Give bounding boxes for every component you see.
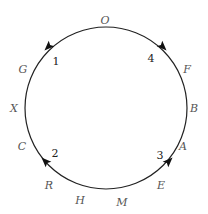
letter-label-f: F bbox=[182, 63, 191, 76]
letter-label-x: X bbox=[9, 102, 19, 115]
number-labels: 1423 bbox=[52, 52, 164, 162]
arrow-3-icon bbox=[163, 155, 176, 168]
letter-label-e: E bbox=[156, 179, 165, 192]
letter-label-a: A bbox=[178, 140, 187, 153]
step-number-4: 4 bbox=[148, 52, 155, 65]
cycle-diagram: OGFXBCAREHM 1423 bbox=[0, 0, 208, 214]
letter-label-r: R bbox=[44, 179, 53, 192]
letter-label-c: C bbox=[18, 140, 27, 153]
letter-label-m: M bbox=[115, 196, 128, 209]
letter-label-b: B bbox=[189, 102, 198, 115]
arrow-4-icon bbox=[157, 41, 170, 54]
letter-labels: OGFXBCAREHM bbox=[9, 14, 198, 209]
cycle-circle bbox=[25, 27, 187, 189]
step-number-3: 3 bbox=[157, 149, 164, 162]
letter-label-o: O bbox=[100, 14, 109, 27]
step-number-1: 1 bbox=[53, 55, 60, 68]
step-number-2: 2 bbox=[52, 147, 59, 160]
letter-label-g: G bbox=[19, 63, 28, 76]
letter-label-h: H bbox=[74, 194, 85, 207]
